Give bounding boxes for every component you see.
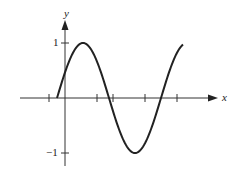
y-tick-label-neg1: −1: [46, 147, 58, 158]
x-axis-arrow-icon: [208, 95, 218, 102]
y-axis-label: y: [64, 8, 69, 19]
y-axis-arrow-icon: [62, 20, 69, 30]
sine-chart: [0, 0, 240, 183]
x-axis-label: x: [222, 92, 227, 103]
y-tick-label-1: 1: [53, 37, 59, 48]
